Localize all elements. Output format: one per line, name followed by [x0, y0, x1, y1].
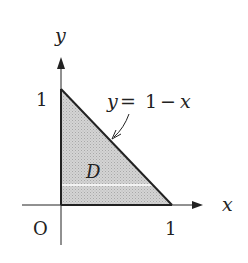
pointer-arrow-icon: [114, 114, 129, 137]
x-axis-arrow-icon: [192, 201, 203, 209]
equation-label: y = 1 − x: [106, 90, 191, 112]
y-axis-arrow-icon: [57, 57, 65, 69]
y-tick-label: 1: [36, 89, 47, 110]
svg-text:1: 1: [145, 90, 157, 112]
x-tick-label: 1: [165, 218, 176, 239]
svg-text:=: =: [120, 90, 136, 112]
svg-text:y: y: [106, 90, 118, 112]
region-diagram: y x 1 O 1 D y = 1 − x: [0, 0, 248, 263]
svg-text:x: x: [180, 90, 191, 112]
svg-text:−: −: [160, 90, 176, 112]
origin-label: O: [33, 218, 48, 239]
y-axis-label: y: [54, 24, 66, 46]
region-label: D: [85, 161, 101, 182]
x-axis-label: x: [222, 193, 233, 215]
